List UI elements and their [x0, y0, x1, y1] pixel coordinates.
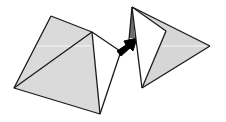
right-pyramid: [129, 7, 210, 88]
diagram-canvas: [0, 0, 226, 122]
arrow-icon: [117, 38, 137, 56]
pyramid-transformation-diagram: [0, 0, 226, 122]
transition-arrow: [117, 38, 137, 56]
left-pyramid: [14, 16, 120, 114]
